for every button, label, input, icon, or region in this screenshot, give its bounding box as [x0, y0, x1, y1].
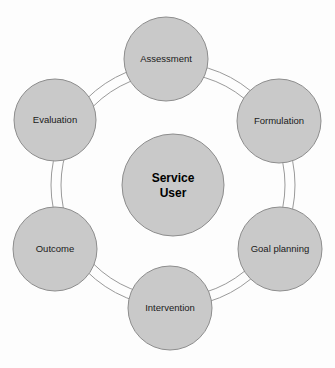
cycle-diagram-canvas: Assessment Formulation Goal planning Int…: [0, 0, 335, 368]
node-label-intervention: Intervention: [145, 302, 195, 313]
node-assessment[interactable]: Assessment: [124, 17, 208, 101]
node-goal-planning[interactable]: Goal planning: [238, 207, 322, 291]
cycle-diagram: Assessment Formulation Goal planning Int…: [0, 0, 335, 368]
node-formulation[interactable]: Formulation: [237, 79, 321, 163]
center-label-line2: User: [160, 186, 187, 200]
node-label-outcome: Outcome: [36, 243, 75, 254]
node-evaluation[interactable]: Evaluation: [14, 79, 96, 161]
center-circle-service-user[interactable]: [122, 134, 224, 236]
node-outcome[interactable]: Outcome: [13, 207, 97, 291]
center-label-line1: Service: [152, 171, 195, 185]
node-label-goal-planning: Goal planning: [251, 243, 310, 254]
node-label-formulation: Formulation: [254, 115, 304, 126]
node-intervention[interactable]: Intervention: [128, 266, 212, 350]
node-label-evaluation: Evaluation: [33, 114, 77, 125]
node-label-assessment: Assessment: [140, 53, 192, 64]
node-service-user[interactable]: Service User: [122, 134, 224, 236]
